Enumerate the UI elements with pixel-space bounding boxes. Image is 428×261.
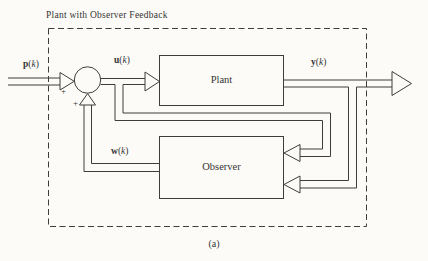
summing-junction-circle <box>74 67 100 93</box>
summer-plus-sign-feedback: + <box>73 99 78 108</box>
control-signal-arrow <box>101 72 160 91</box>
output-signal-arrow <box>284 72 412 96</box>
plant-block-label: Plant <box>159 75 284 86</box>
observer-block-label: Observer <box>159 162 284 173</box>
reference-signal-label: p(k) <box>23 60 39 70</box>
figure-title: Plant with Observer Feedback <box>46 11 168 21</box>
block-diagram-figure: Plant with Observer Feedback p(k) u(k) y… <box>0 0 428 261</box>
output-signal-label: y(k) <box>311 58 326 68</box>
estimate-symbol: w <box>111 146 118 156</box>
subfigure-caption: (a) <box>202 239 226 249</box>
summer-plus-sign-input: + <box>61 87 66 96</box>
paren-close: ) <box>125 146 128 156</box>
estimate-signal-label: w(k) <box>111 147 128 157</box>
output-branch-to-observer <box>284 87 357 193</box>
observer-feedback-arrow <box>80 94 160 172</box>
paren-close: ) <box>36 59 39 69</box>
paren-close: ) <box>323 57 326 67</box>
control-signal-label: u(k) <box>114 56 130 66</box>
paren-close: ) <box>127 55 130 65</box>
diagram-linework <box>0 0 428 261</box>
